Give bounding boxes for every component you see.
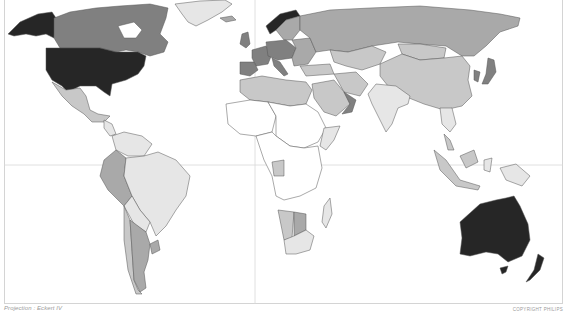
japan[interactable] [482,58,496,84]
uruguay[interactable] [150,240,160,254]
korea[interactable] [474,70,480,82]
sulawesi[interactable] [484,158,492,172]
copyright-label: COPYRIGHT PHILIPS [513,307,563,312]
namibia[interactable] [278,210,294,240]
madagascar[interactable] [322,198,332,228]
papua-new-guinea[interactable] [500,164,530,186]
malaysia[interactable] [444,134,454,150]
iceland[interactable] [220,16,236,22]
world-map [0,0,571,304]
southeast-asia[interactable] [440,108,456,132]
turkey[interactable] [300,64,334,76]
west-africa[interactable] [226,100,276,136]
tasmania[interactable] [500,266,508,274]
alaska[interactable] [8,12,56,38]
central-america[interactable] [104,120,116,136]
united-kingdom[interactable] [240,32,250,48]
australia[interactable] [460,196,530,262]
italy[interactable] [272,58,288,76]
germany-central-europe[interactable] [266,40,296,60]
gabon[interactable] [272,160,284,176]
new-zealand[interactable] [526,254,544,282]
india[interactable] [368,84,410,132]
projection-label: Projection : Eckert IV [4,305,62,311]
greenland[interactable] [175,0,232,26]
